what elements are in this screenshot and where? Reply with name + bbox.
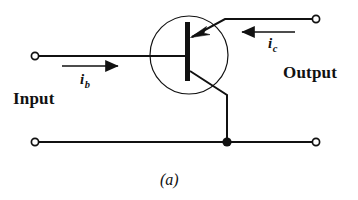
output-top-terminal[interactable] — [312, 15, 319, 22]
base-current-symbol: i — [80, 71, 84, 87]
base-current-subscript: b — [85, 79, 90, 90]
collector-current-label: ic — [268, 36, 277, 51]
emitter-lead-wire — [190, 71, 227, 142]
emitter-ground-junction-dot — [222, 137, 231, 146]
collector-current-symbol: i — [268, 35, 272, 51]
figure-transistor-circuit: Input Output ib ic (a) — [0, 0, 358, 200]
collector-current-subscript: c — [273, 43, 278, 54]
base-current-label: ib — [80, 72, 89, 87]
input-label: Input — [13, 90, 55, 107]
figure-caption: (a) — [160, 172, 179, 188]
output-bottom-terminal[interactable] — [312, 138, 319, 145]
input-top-terminal[interactable] — [31, 52, 38, 59]
input-bottom-terminal[interactable] — [31, 138, 38, 145]
output-label: Output — [283, 64, 337, 81]
